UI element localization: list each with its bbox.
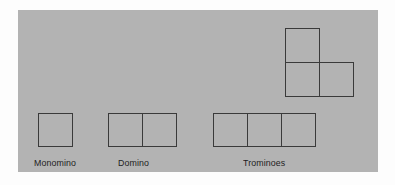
shape-domino <box>108 113 180 148</box>
label-domino: Domino <box>118 157 149 168</box>
figure-panel: Monomino Domino Trominoes <box>18 10 378 172</box>
domino-cell-1 <box>142 113 177 147</box>
tromino-straight-cell-1 <box>247 113 282 147</box>
tromino-l-cell-bottom-left <box>285 62 320 97</box>
label-monomino: Monomino <box>34 157 76 168</box>
tromino-l-cell-top-left <box>285 28 320 63</box>
domino-cell-0 <box>108 113 143 147</box>
shape-tromino-l <box>285 28 355 98</box>
monomino-cell-0 <box>38 113 73 147</box>
tromino-straight-cell-2 <box>281 113 316 147</box>
shape-monomino <box>38 113 74 148</box>
tromino-straight-cell-0 <box>213 113 248 147</box>
shape-tromino-straight <box>213 113 319 148</box>
label-trominoes: Trominoes <box>243 157 285 168</box>
tromino-l-cell-bottom-right <box>319 62 354 97</box>
polyomino-figure: Monomino Domino Trominoes <box>0 0 395 185</box>
